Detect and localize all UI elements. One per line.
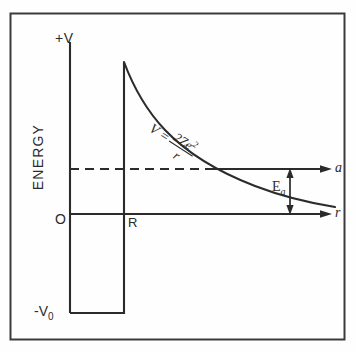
figure-root: +V ENERGY O -V0 R a r Ea V =2Ze2r [0,0,356,352]
energy-gap-label: Ea [272,180,286,197]
axis-label-origin: O [55,212,66,226]
axis-label-positive-v: +V [55,31,74,45]
energy-gap-text: E [272,179,281,194]
energy-gap-subscript: a [281,186,286,197]
axis-label-radial: r [335,206,340,220]
alpha-axis-arrowhead [320,165,332,173]
radial-axis-arrowhead [320,210,332,218]
axis-label-alpha: a [335,161,342,175]
square-well-outline [70,62,124,313]
well-depth-subscript: 0 [48,311,54,322]
axis-label-barrier-radius: R [128,216,137,229]
axis-label-energy: ENERGY [31,117,45,197]
axis-label-well-depth: -V0 [34,304,54,322]
well-depth-text: -V [34,303,48,319]
potential-energy-diagram [0,0,356,352]
figure-border [11,14,345,340]
